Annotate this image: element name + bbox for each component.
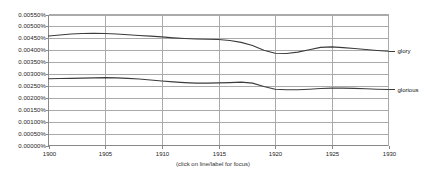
series-label-glorious[interactable]: glorious bbox=[398, 87, 419, 93]
x-axis-tick-labels: 1900190519101915192019251930 bbox=[0, 0, 426, 181]
x-tick-label: 1910 bbox=[150, 151, 176, 157]
series-label-glory[interactable]: glory bbox=[398, 48, 411, 54]
x-tick-label: 1920 bbox=[263, 151, 289, 157]
ngram-chart[interactable]: 0.00000%0.00050%0.00100%0.00150%0.00200%… bbox=[0, 0, 426, 181]
x-tick-label: 1915 bbox=[207, 151, 233, 157]
x-tick-label: 1925 bbox=[320, 151, 346, 157]
x-tick-label: 1905 bbox=[93, 151, 119, 157]
chart-caption: (click on line/label for focus) bbox=[0, 161, 426, 168]
x-tick-label: 1930 bbox=[377, 151, 403, 157]
x-tick-label: 1900 bbox=[37, 151, 63, 157]
